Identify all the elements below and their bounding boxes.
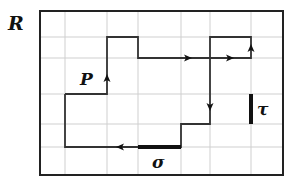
path-label: P: [79, 69, 94, 89]
region-label: R: [7, 12, 24, 34]
grid-path-diagram: R P σ τ: [0, 0, 298, 185]
sigma-label: σ: [152, 152, 165, 172]
tau-label: τ: [257, 99, 269, 119]
path-arrows: [104, 44, 255, 151]
region-border: [40, 11, 283, 175]
path-p: [65, 37, 251, 147]
grid-lines: [40, 11, 283, 175]
